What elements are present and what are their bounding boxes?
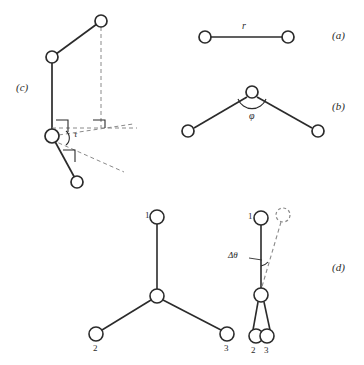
panel-d-left-group [89, 210, 234, 341]
out-of-plane-bend-symbol-delta-theta: Δθ [228, 250, 238, 260]
panel-label-b: (b) [332, 100, 345, 112]
panel-b-atom-apex [246, 86, 258, 98]
molecular-geometry-figure: (c) (a) (b) (d) r φ τ Δθ 1 2 3 1 2 3 [0, 0, 364, 365]
panel-b-atom-left [182, 125, 194, 137]
atom-number-left-1: 1 [145, 210, 150, 220]
atom-number-left-3: 3 [224, 343, 229, 353]
panel-d-left-atom-center [150, 289, 164, 303]
panel-c-bond-top-upper [52, 21, 101, 57]
panel-b-atom-right [312, 125, 324, 137]
panel-label-c: (c) [16, 81, 28, 93]
panel-c-group [45, 15, 137, 188]
panel-d-left-atom-3 [220, 327, 234, 341]
panel-c-right-angle-marker-1 [56, 120, 68, 132]
panel-d-right-atom-1 [254, 211, 268, 225]
atom-number-right-3: 3 [264, 345, 269, 355]
panel-d-right-group [249, 208, 290, 343]
panel-d-left-atom-1 [150, 210, 164, 224]
atom-number-right-2: 2 [251, 345, 256, 355]
panel-d-right-bend-arc [261, 262, 268, 266]
panel-d-right-dashed-displaced-bond [261, 222, 281, 290]
panel-d-left-atom-2 [89, 327, 103, 341]
panel-label-a: (a) [332, 29, 345, 41]
panel-d-right-atom-1-displaced-ghost [276, 208, 290, 222]
panel-d-left-bond-center-3 [163, 300, 221, 330]
bond-length-symbol-r: r [242, 20, 246, 31]
panel-c-dashed-ray-upper [52, 124, 133, 136]
panel-a-atom-right [282, 31, 294, 43]
panel-d-right-atom-center [254, 288, 268, 302]
torsion-angle-symbol-tau: τ [74, 129, 77, 139]
panel-d-right-bend-leader-line [249, 258, 262, 260]
panel-c-atom-upper [46, 51, 58, 63]
figure-vector-canvas [0, 0, 364, 365]
panel-c-bond-pivot-bottom [52, 136, 77, 182]
atom-number-right-1: 1 [248, 211, 253, 221]
atom-number-left-2: 2 [93, 343, 98, 353]
panel-d-right-bond-center-3 [264, 302, 270, 330]
panel-d-right-bond-center-2 [253, 302, 258, 330]
panel-c-atom-pivot [45, 129, 59, 143]
panel-c-right-angle-marker-2 [93, 120, 105, 128]
panel-c-atom-bottom [71, 176, 83, 188]
panel-d-right-atom-3 [260, 329, 274, 343]
panel-c-atom-top [95, 15, 107, 27]
panel-a-atom-left [199, 31, 211, 43]
panel-d-left-bond-center-2 [102, 300, 151, 330]
panel-a-group [199, 31, 294, 43]
bond-angle-symbol-phi: φ [249, 110, 255, 121]
panel-label-d: (d) [332, 261, 345, 273]
